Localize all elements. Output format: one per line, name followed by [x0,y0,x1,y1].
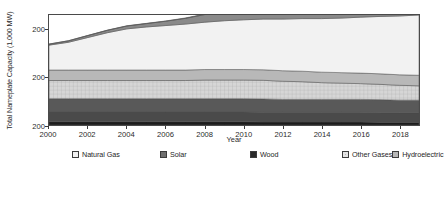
legend-item-solar[interactable]: Solar [160,149,250,160]
x-tick-mark [322,126,323,129]
chart-legend: Natural GasSolarWoodOther GasesHydroelec… [72,149,402,160]
legend-swatch-wood [250,151,257,158]
legend-label: Wood [260,150,278,159]
legend-label: Solar [170,150,187,159]
x-axis-title: Year [48,135,420,144]
area-band-nuclear [49,99,419,113]
legend-swatch-other-gases [342,151,349,158]
legend-swatch-natural-gas [72,151,79,158]
chart-figure: Total Nameplate Capacity (1,000 MW) 2002… [0,0,444,207]
legend-item-hydroelectric[interactable]: Hydroelectric [392,149,443,160]
legend-swatch-hydroelectric [392,151,399,158]
x-tick-mark [87,126,88,129]
legend-label: Natural Gas [82,150,120,159]
legend-swatch-solar [160,151,167,158]
area-band-natural-gas [49,15,419,75]
x-tick-mark [126,126,127,129]
x-tick-mark [244,126,245,129]
y-tick-label: 200 [32,73,45,82]
y-tick-label: 200 [32,24,45,33]
x-tick-mark [165,126,166,129]
y-axis-title: Total Nameplate Capacity (1,000 MW) [2,0,18,140]
x-tick-mark [400,126,401,129]
legend-label: Hydroelectric [402,150,443,159]
x-tick-mark [48,126,49,129]
y-axis-ticks: 200200200 [18,14,48,126]
area-band-pumped-storage [49,112,419,122]
stacked-area-series [49,15,419,125]
x-tick-mark [283,126,284,129]
legend-item-natural-gas[interactable]: Natural Gas [72,149,160,160]
legend-label: Other Gases [352,150,392,159]
x-tick-mark [361,126,362,129]
legend-item-other-gases[interactable]: Other Gases [342,149,392,160]
plot-area [48,14,420,126]
legend-item-wood[interactable]: Wood [250,149,342,160]
y-axis-title-text: Total Nameplate Capacity (1,000 MW) [6,11,15,129]
x-tick-mark [205,126,206,129]
